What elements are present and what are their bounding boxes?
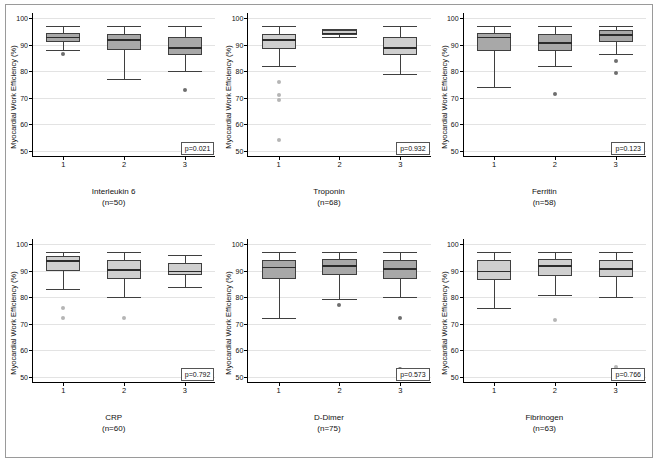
y-tick-label: 100 bbox=[443, 15, 459, 22]
y-tick-label: 100 bbox=[227, 241, 243, 248]
y-tick-mark bbox=[244, 297, 248, 298]
y-tick-mark bbox=[460, 45, 464, 46]
gridline bbox=[33, 350, 215, 351]
y-tick-label: 80 bbox=[443, 294, 459, 301]
whisker-cap bbox=[46, 50, 80, 51]
whisker-cap bbox=[322, 252, 356, 253]
gridline bbox=[464, 71, 646, 72]
y-tick-mark bbox=[29, 71, 33, 72]
median-line bbox=[383, 47, 417, 49]
y-tick-mark bbox=[460, 324, 464, 325]
x-tick-label: 2 bbox=[337, 386, 341, 395]
x-tick-label: 3 bbox=[398, 160, 402, 169]
panel-subtitle: (n=63) bbox=[437, 424, 652, 435]
y-tick-label: 60 bbox=[12, 121, 28, 128]
y-tick-mark bbox=[460, 124, 464, 125]
x-tick-mark bbox=[400, 382, 401, 386]
median-line bbox=[168, 47, 202, 49]
y-tick-label: 90 bbox=[443, 267, 459, 274]
whisker-cap bbox=[168, 71, 202, 72]
whisker-cap bbox=[383, 252, 417, 253]
plot-canvas: 5060708090100123p=0.792 bbox=[32, 239, 215, 383]
y-tick-label: 90 bbox=[227, 41, 243, 48]
panel-subtitle: (n=50) bbox=[6, 198, 221, 209]
y-tick-mark bbox=[244, 377, 248, 378]
x-tick-label: 3 bbox=[398, 386, 402, 395]
whisker-cap bbox=[46, 252, 80, 253]
x-tick-mark bbox=[279, 156, 280, 160]
whisker-cap bbox=[168, 26, 202, 27]
median-line bbox=[262, 39, 296, 41]
panel-interleukin-6: Myocardial Work Efficiency (%)5060708090… bbox=[6, 5, 221, 231]
axes-troponin: 5060708090100123p=0.932 bbox=[247, 13, 430, 157]
x-tick-mark bbox=[555, 382, 556, 386]
gridline bbox=[464, 98, 646, 99]
y-tick-label: 80 bbox=[12, 68, 28, 75]
box bbox=[107, 34, 141, 50]
panel-grid: Myocardial Work Efficiency (%)5060708090… bbox=[6, 5, 652, 457]
p-value-box: p=0.123 bbox=[611, 142, 645, 155]
whisker-cap bbox=[538, 252, 572, 253]
x-tick-mark bbox=[616, 156, 617, 160]
y-tick-label: 70 bbox=[443, 94, 459, 101]
box bbox=[168, 37, 202, 56]
outlier-point bbox=[614, 59, 618, 63]
panel-caption: Fibrinogen(n=63) bbox=[437, 413, 652, 434]
y-tick-mark bbox=[460, 151, 464, 152]
panel-title: CRP bbox=[6, 413, 221, 424]
gridline bbox=[248, 98, 430, 99]
median-line bbox=[383, 268, 417, 270]
median-line bbox=[322, 33, 356, 35]
y-tick-mark bbox=[244, 151, 248, 152]
y-tick-label: 60 bbox=[227, 121, 243, 128]
whisker-cap bbox=[383, 297, 417, 298]
p-value-box: p=0.932 bbox=[396, 142, 430, 155]
y-tick-label: 50 bbox=[12, 147, 28, 154]
y-tick-label: 90 bbox=[12, 267, 28, 274]
panel-fibrinogen: Myocardial Work Efficiency (%)5060708090… bbox=[437, 231, 652, 457]
box bbox=[262, 34, 296, 49]
y-tick-label: 80 bbox=[227, 68, 243, 75]
y-tick-mark bbox=[460, 377, 464, 378]
gridline bbox=[464, 350, 646, 351]
y-tick-mark bbox=[460, 350, 464, 351]
x-tick-mark bbox=[400, 156, 401, 160]
x-tick-label: 2 bbox=[553, 160, 557, 169]
y-tick-mark bbox=[29, 18, 33, 19]
panel-caption: Troponin(n=68) bbox=[221, 187, 436, 208]
y-tick-label: 70 bbox=[12, 94, 28, 101]
box bbox=[46, 256, 80, 271]
y-tick-mark bbox=[29, 297, 33, 298]
y-tick-mark bbox=[460, 71, 464, 72]
axes-ferritin: 5060708090100123p=0.123 bbox=[463, 13, 646, 157]
outlier-point bbox=[277, 80, 281, 84]
x-tick-mark bbox=[185, 382, 186, 386]
p-value-box: p=0.021 bbox=[181, 142, 215, 155]
y-tick-mark bbox=[244, 324, 248, 325]
whisker-cap bbox=[538, 295, 572, 296]
box bbox=[538, 259, 572, 276]
outlier-point bbox=[277, 98, 281, 102]
y-tick-mark bbox=[460, 18, 464, 19]
y-tick-label: 70 bbox=[227, 94, 243, 101]
whisker-cap bbox=[538, 66, 572, 67]
p-value-box: p=0.573 bbox=[396, 368, 430, 381]
gridline bbox=[33, 324, 215, 325]
whisker-cap bbox=[262, 252, 296, 253]
y-tick-label: 100 bbox=[12, 15, 28, 22]
y-tick-mark bbox=[244, 45, 248, 46]
x-tick-mark bbox=[279, 382, 280, 386]
plot-area-ferritin: Myocardial Work Efficiency (%)5060708090… bbox=[437, 11, 652, 183]
y-tick-label: 60 bbox=[443, 347, 459, 354]
whisker-cap bbox=[107, 79, 141, 80]
plot-canvas: 5060708090100123p=0.573 bbox=[247, 239, 430, 383]
panel-title: Troponin bbox=[221, 187, 436, 198]
panel-caption: Interleukin 6(n=50) bbox=[6, 187, 221, 208]
median-line bbox=[107, 269, 141, 271]
whisker-cap bbox=[599, 26, 633, 27]
x-tick-label: 3 bbox=[614, 386, 618, 395]
gridline bbox=[464, 124, 646, 125]
gridline bbox=[464, 324, 646, 325]
x-tick-mark bbox=[185, 156, 186, 160]
panel-subtitle: (n=68) bbox=[221, 198, 436, 209]
